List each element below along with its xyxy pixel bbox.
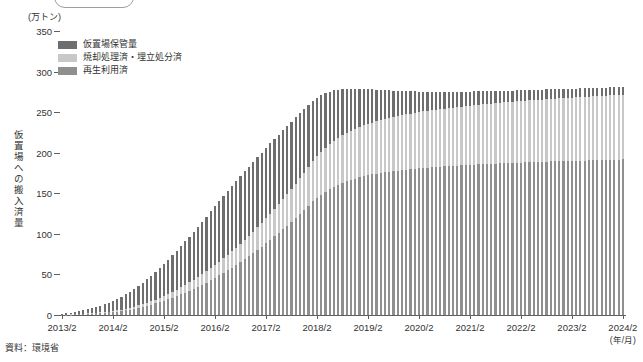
- bar-column: [435, 92, 437, 315]
- bar-segment: [460, 165, 462, 315]
- bar-column: [112, 301, 114, 315]
- bar-column: [422, 92, 424, 315]
- x-tick-mark: [419, 315, 420, 319]
- bar-segment: [261, 223, 263, 247]
- bar-segment: [367, 175, 369, 315]
- bar-column: [286, 126, 288, 315]
- y-tick-label: 100: [18, 229, 52, 240]
- bar-segment: [112, 301, 114, 311]
- legend-label: 仮置場保管量: [83, 39, 137, 50]
- bar-column: [622, 87, 624, 315]
- bar-column: [618, 87, 620, 315]
- bar-segment: [210, 211, 212, 268]
- bar-column: [337, 90, 339, 315]
- bar-segment: [350, 131, 352, 180]
- bar-segment: [448, 166, 450, 315]
- bar-segment: [537, 100, 539, 162]
- bar-segment: [397, 116, 399, 171]
- bar-segment: [622, 159, 624, 315]
- bar-segment: [171, 255, 173, 292]
- bar-column: [290, 122, 292, 315]
- bar-column: [78, 311, 80, 315]
- bar-column: [465, 92, 467, 315]
- bar-segment: [82, 314, 84, 315]
- bar-segment: [384, 172, 386, 315]
- y-tick-label: 50: [18, 269, 52, 280]
- bar-segment: [188, 291, 190, 315]
- bar-segment: [295, 184, 297, 218]
- bar-column: [456, 92, 458, 315]
- bar-segment: [104, 313, 106, 315]
- bar-segment: [142, 307, 144, 315]
- bar-segment: [218, 262, 220, 276]
- bar-column: [507, 91, 509, 315]
- bar-segment: [494, 91, 496, 103]
- bar-segment: [486, 104, 488, 164]
- bar-column: [333, 90, 335, 315]
- bar-segment: [533, 100, 535, 162]
- bar-segment: [418, 112, 420, 168]
- bar-segment: [448, 92, 450, 108]
- bar-column: [150, 276, 152, 315]
- bar-segment: [494, 164, 496, 315]
- bar-segment: [609, 87, 611, 95]
- x-tick-mark: [266, 315, 267, 319]
- bar-column: [235, 181, 237, 315]
- bar-segment: [431, 110, 433, 167]
- bar-column: [180, 246, 182, 315]
- bar-segment: [558, 161, 560, 315]
- bar-segment: [507, 102, 509, 163]
- bar-column: [99, 306, 101, 315]
- bar-segment: [261, 247, 263, 315]
- bar-segment: [201, 274, 203, 284]
- bar-column: [231, 186, 233, 315]
- bar-segment: [180, 287, 182, 294]
- bar-segment: [584, 88, 586, 97]
- bar-segment: [414, 113, 416, 169]
- x-tick-label: 2013/2: [48, 322, 77, 333]
- bar-segment: [545, 99, 547, 161]
- bar-segment: [558, 98, 560, 161]
- bar-segment: [528, 100, 530, 162]
- bar-segment: [133, 309, 135, 315]
- legend-label: 焼却処理済・埋立処分済: [83, 52, 182, 63]
- bar-column: [108, 303, 110, 315]
- bar-segment: [473, 165, 475, 315]
- bar-segment: [592, 88, 594, 96]
- bar-segment: [346, 181, 348, 315]
- bar-column: [579, 88, 581, 315]
- bar-column: [350, 89, 352, 315]
- bar-segment: [227, 270, 229, 315]
- bar-segment: [426, 168, 428, 315]
- bar-segment: [235, 265, 237, 315]
- bar-segment: [303, 210, 305, 315]
- bar-column: [524, 90, 526, 315]
- bar-segment: [460, 107, 462, 166]
- bar-segment: [618, 160, 620, 315]
- bar-column: [244, 171, 246, 315]
- bar-segment: [392, 91, 394, 117]
- bar-segment: [188, 237, 190, 283]
- bar-column: [316, 98, 318, 315]
- bar-column: [282, 130, 284, 315]
- bar-column: [188, 237, 190, 315]
- bar-segment: [239, 244, 241, 262]
- bar-segment: [562, 89, 564, 98]
- bar-segment: [490, 91, 492, 103]
- bar-segment: [324, 192, 326, 315]
- bar-segment: [176, 296, 178, 315]
- bar-column: [439, 92, 441, 315]
- bar-segment: [303, 109, 305, 173]
- bar-segment: [150, 305, 152, 315]
- bar-segment: [516, 163, 518, 315]
- bar-column: [388, 90, 390, 315]
- bar-segment: [456, 166, 458, 315]
- bar-segment: [354, 179, 356, 315]
- bar-segment: [350, 89, 352, 131]
- x-tick-label: 2024/2: [608, 322, 637, 333]
- bar-segment: [282, 229, 284, 315]
- x-axis-unit: (年/月): [610, 333, 636, 345]
- bar-segment: [197, 277, 199, 287]
- bar-column: [571, 89, 573, 315]
- bar-segment: [129, 310, 131, 315]
